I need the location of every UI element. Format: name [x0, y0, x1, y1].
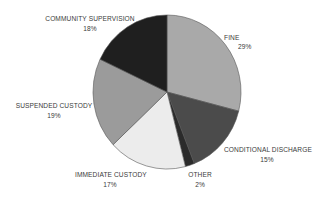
label-other-name: OTHER	[188, 171, 212, 178]
label-immediate-custody: IMMEDIATE CUSTODY 17%	[75, 172, 145, 188]
label-conditional-discharge-pct: 15%	[224, 157, 310, 164]
label-fine-name: FINE	[224, 34, 239, 41]
label-conditional-discharge-name: CONDITIONAL DISCHARGE	[224, 146, 312, 153]
label-fine-pct-wrap: 29%	[238, 44, 258, 51]
label-community-supervision-pct: 18%	[40, 26, 140, 33]
label-immediate-custody-pct: 17%	[75, 182, 145, 189]
label-other: OTHER 2%	[188, 172, 212, 188]
label-other-pct: 2%	[188, 182, 212, 189]
label-conditional-discharge: CONDITIONAL DISCHARGE 15%	[224, 147, 310, 163]
label-suspended-custody-pct: 19%	[14, 113, 94, 120]
label-community-supervision-name: COMMUNITY SUPERVISION	[45, 15, 134, 22]
label-suspended-custody-name: SUSPENDED CUSTODY	[16, 102, 93, 109]
label-fine-pct: 29%	[238, 43, 252, 50]
label-fine: FINE	[224, 35, 244, 42]
label-community-supervision: COMMUNITY SUPERVISION 18%	[40, 16, 140, 32]
label-immediate-custody-name: IMMEDIATE CUSTODY	[75, 171, 147, 178]
pie-slices	[93, 15, 241, 169]
label-suspended-custody: SUSPENDED CUSTODY 19%	[14, 103, 94, 119]
